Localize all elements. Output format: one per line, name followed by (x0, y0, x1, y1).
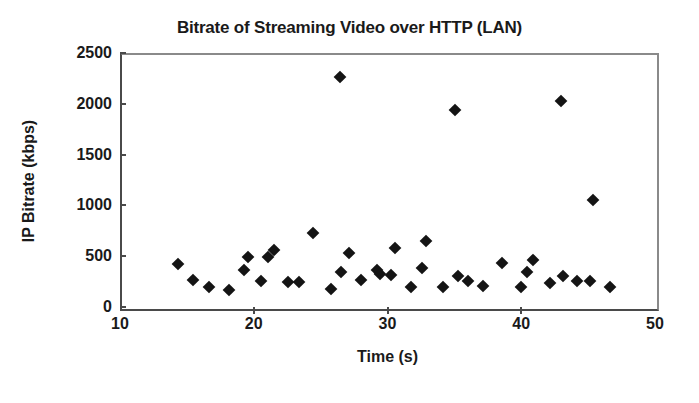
y-tick-label: 0 (103, 298, 112, 316)
x-tick-label: 30 (379, 315, 397, 333)
y-tick-mark (120, 204, 126, 206)
scatter-point (437, 281, 450, 294)
y-tick-label: 1500 (76, 146, 112, 164)
y-tick-label: 2000 (76, 95, 112, 113)
x-axis-tick-labels: 1020304050 (0, 315, 699, 339)
scatter-point (335, 266, 348, 279)
scatter-point (495, 256, 508, 269)
scatter-point (292, 275, 305, 288)
x-tick-label: 20 (245, 315, 263, 333)
scatter-point (343, 246, 356, 259)
scatter-point (187, 273, 200, 286)
x-tick-label: 50 (646, 315, 664, 333)
scatter-point (514, 281, 527, 294)
plot-area (120, 53, 659, 311)
y-tick-mark (120, 306, 126, 308)
scatter-point (584, 274, 597, 287)
scatter-point (477, 279, 490, 292)
y-tick-label: 2500 (76, 44, 112, 62)
x-tick-mark (253, 307, 255, 314)
scatter-points-layer (122, 55, 657, 309)
scatter-point (237, 264, 250, 277)
scatter-point (462, 275, 475, 288)
scatter-point (405, 281, 418, 294)
scatter-point (604, 280, 617, 293)
scatter-point (415, 261, 428, 274)
scatter-point (241, 251, 254, 264)
chart-title: Bitrate of Streaming Video over HTTP (LA… (0, 18, 699, 38)
y-tick-label: 1000 (76, 196, 112, 214)
scatter-point (355, 273, 368, 286)
scatter-point (449, 104, 462, 117)
x-tick-label: 40 (512, 315, 530, 333)
y-axis-tick-labels: 05001000150020002500 (30, 53, 112, 307)
scatter-point (255, 275, 268, 288)
scatter-point (419, 235, 432, 248)
y-tick-label: 500 (85, 247, 112, 265)
scatter-point (586, 193, 599, 206)
y-tick-mark (120, 52, 126, 54)
chart-figure: Bitrate of Streaming Video over HTTP (LA… (0, 0, 699, 403)
scatter-point (557, 270, 570, 283)
x-axis-title: Time (s) (120, 348, 655, 366)
scatter-point (172, 258, 185, 271)
scatter-point (223, 284, 236, 297)
scatter-point (384, 269, 397, 282)
y-tick-mark (120, 154, 126, 156)
scatter-point (203, 281, 216, 294)
scatter-point (307, 226, 320, 239)
y-tick-mark (120, 255, 126, 257)
scatter-point (521, 266, 534, 279)
scatter-point (554, 95, 567, 108)
x-tick-label: 10 (111, 315, 129, 333)
scatter-point (324, 282, 337, 295)
scatter-point (570, 274, 583, 287)
y-tick-mark (120, 103, 126, 105)
scatter-point (334, 71, 347, 84)
scatter-point (544, 276, 557, 289)
scatter-point (526, 253, 539, 266)
x-tick-mark (520, 307, 522, 314)
x-tick-mark (387, 307, 389, 314)
scatter-point (388, 242, 401, 255)
